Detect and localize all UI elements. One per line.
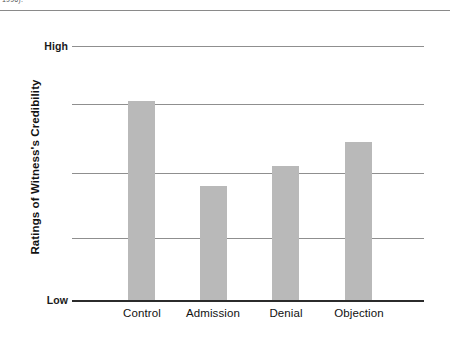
figure-frame: High Low Ratings of Witness's Credibilit…	[0, 10, 450, 344]
bar-denial	[272, 166, 299, 300]
x-tick-label-denial: Denial	[250, 307, 322, 319]
x-tick-label-admission: Admission	[177, 307, 249, 319]
y-axis-title: Ratings of Witness's Credibility	[29, 62, 41, 272]
bar-objection	[345, 142, 372, 300]
y-tick-label-high: High	[16, 40, 68, 52]
y-tick-label-low: Low	[16, 294, 68, 306]
x-tick-label-control: Control	[106, 307, 178, 319]
bar-control	[128, 101, 155, 300]
axis-baseline	[72, 300, 424, 302]
x-tick-label-objection: Objection	[323, 307, 395, 319]
bar-admission	[200, 186, 227, 300]
citation-fragment: 1996).	[2, 0, 23, 3]
gridline-high	[72, 46, 424, 47]
bar-chart-plot-area: High Low Ratings of Witness's Credibilit…	[0, 11, 450, 344]
gridline-3	[72, 104, 424, 105]
